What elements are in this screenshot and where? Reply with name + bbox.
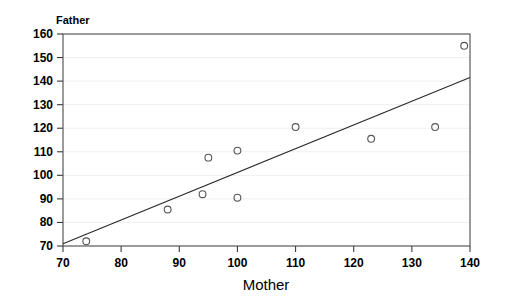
ytick-label-130: 130 — [33, 98, 53, 112]
scatter-plot-figure: Father 160 150 140 130 — [0, 0, 512, 301]
figure-background — [0, 0, 512, 301]
y-axis-title: Father — [56, 14, 90, 26]
ytick-label-110: 110 — [34, 145, 54, 159]
ytick-label-100: 100 — [33, 168, 53, 182]
xtick-label-140: 140 — [460, 256, 480, 270]
x-axis-title: Mother — [243, 276, 290, 293]
xtick-label-90: 90 — [173, 256, 187, 270]
ytick-label-120: 120 — [33, 121, 53, 135]
xtick-label-70: 70 — [56, 256, 70, 270]
ytick-label-80: 80 — [40, 215, 54, 229]
xtick-label-130: 130 — [402, 256, 422, 270]
ytick-label-150: 150 — [33, 51, 53, 65]
ytick-label-140: 140 — [33, 74, 53, 88]
plot-canvas: Father 160 150 140 130 — [0, 0, 512, 301]
ytick-label-90: 90 — [40, 192, 54, 206]
xtick-label-100: 100 — [227, 256, 247, 270]
xtick-label-110: 110 — [286, 256, 306, 270]
xtick-label-120: 120 — [344, 256, 364, 270]
ytick-label-70: 70 — [40, 239, 54, 253]
xtick-label-80: 80 — [114, 256, 128, 270]
ytick-label-160: 160 — [33, 27, 53, 41]
